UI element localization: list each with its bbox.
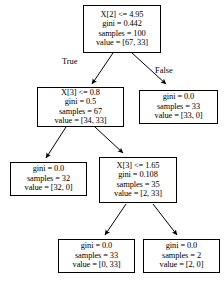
node-samples: samples = 100 [98,29,145,38]
decision-tree-diagram: X[2] <= 4.95 gini = 0.442 samples = 100 … [0,0,224,282]
node-samples: samples = 67 [59,107,102,116]
node-samples: samples = 33 [75,251,118,260]
tree-node-leaf-2[interactable]: gini = 0.0 samples = 2 value = [2, 0] [143,239,220,273]
edge-label-false: False [155,66,173,75]
node-value: value = [33, 0] [155,111,203,120]
node-gini: gini = 0.0 [33,164,64,173]
node-value: value = [0, 33] [73,260,121,269]
node-condition: X[2] <= 4.95 [101,10,144,19]
node-gini: gini = 0.108 [118,170,158,179]
tree-node-left-1[interactable]: X[3] <= 0.8 gini = 0.5 samples = 67 valu… [37,87,124,127]
node-gini: gini = 0.0 [163,92,194,101]
node-samples: samples = 33 [157,102,200,111]
node-gini: gini = 0.5 [65,97,96,106]
node-samples: samples = 35 [116,180,159,189]
node-value: value = [2, 0] [160,260,204,269]
tree-node-leaf-1[interactable]: gini = 0.0 samples = 33 value = [0, 33] [58,239,135,273]
node-value: value = [2, 33] [114,189,162,198]
node-value: value = [32, 0] [25,183,73,192]
node-value: value = [34, 33] [55,116,107,125]
tree-node-root[interactable]: X[2] <= 4.95 gini = 0.442 samples = 100 … [83,5,161,53]
node-condition: X[3] <= 1.65 [117,161,160,170]
node-samples: samples = 32 [27,174,70,183]
tree-node-right-1[interactable]: gini = 0.0 samples = 33 value = [33, 0] [139,90,218,124]
node-gini: gini = 0.0 [81,241,112,250]
tree-node-left-2[interactable]: gini = 0.0 samples = 32 value = [32, 0] [10,162,87,196]
tree-node-right-2[interactable]: X[3] <= 1.65 gini = 0.108 samples = 35 v… [99,157,177,203]
node-samples: samples = 2 [162,251,201,260]
node-gini: gini = 0.0 [166,241,197,250]
edge-label-true: True [62,57,78,66]
node-condition: X[3] <= 0.8 [61,88,100,97]
node-value: value = [67, 33] [96,38,148,47]
node-gini: gini = 0.442 [102,19,142,28]
